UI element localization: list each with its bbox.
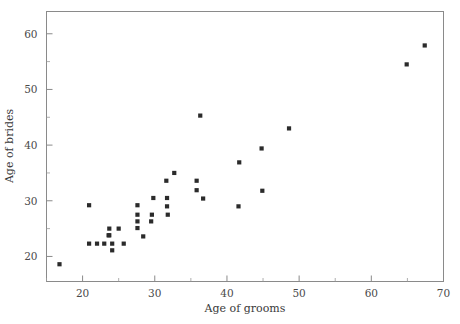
data-point-marker [95, 242, 99, 246]
data-point-marker [287, 126, 291, 130]
data-point-marker [151, 196, 155, 200]
x-tick-label: 50 [292, 287, 305, 299]
y-tick-label: 40 [24, 139, 37, 151]
y-axis-title: Age of brides [3, 109, 16, 185]
chart-background [0, 0, 460, 324]
y-tick-label: 50 [24, 83, 37, 95]
data-point-marker [110, 242, 114, 246]
data-point-marker [198, 114, 202, 118]
data-point-marker [260, 189, 264, 193]
data-point-marker [135, 219, 139, 223]
data-point-marker [107, 227, 111, 231]
data-point-marker [87, 203, 91, 207]
x-axis-title: Age of grooms [204, 302, 286, 315]
scatter-plot-figure: 203040506070 2030405060 Age of grooms Ag… [0, 0, 460, 324]
data-point-marker [172, 171, 176, 175]
y-tick-label: 20 [24, 250, 37, 262]
data-point-marker [423, 43, 427, 47]
data-point-marker [236, 204, 240, 208]
data-point-marker [135, 213, 139, 217]
x-tick-label: 60 [365, 287, 378, 299]
data-point-marker [149, 219, 153, 223]
data-point-marker [405, 62, 409, 66]
data-point-marker [107, 233, 111, 237]
data-point-marker [141, 234, 145, 238]
data-point-marker [135, 203, 139, 207]
data-point-marker [201, 196, 205, 200]
chart-canvas: 203040506070 2030405060 Age of grooms Ag… [0, 0, 460, 324]
x-tick-label: 30 [148, 287, 161, 299]
data-point-marker [195, 188, 199, 192]
data-point-marker [237, 160, 241, 164]
data-point-marker [260, 146, 264, 150]
y-tick-label: 30 [24, 195, 37, 207]
data-point-marker [110, 248, 114, 252]
y-tick-label: 60 [24, 28, 37, 40]
data-point-marker [164, 179, 168, 183]
data-point-marker [195, 179, 199, 183]
data-point-marker [135, 226, 139, 230]
x-tick-label: 70 [437, 287, 450, 299]
data-point-marker [165, 196, 169, 200]
data-point-marker [122, 242, 126, 246]
x-tick-label: 40 [220, 287, 233, 299]
data-point-marker [150, 213, 154, 217]
data-point-marker [117, 227, 121, 231]
data-point-marker [87, 242, 91, 246]
data-point-marker [57, 262, 61, 266]
data-point-marker [102, 242, 106, 246]
data-point-marker [165, 204, 169, 208]
data-point-marker [166, 213, 170, 217]
x-tick-label: 20 [76, 287, 89, 299]
